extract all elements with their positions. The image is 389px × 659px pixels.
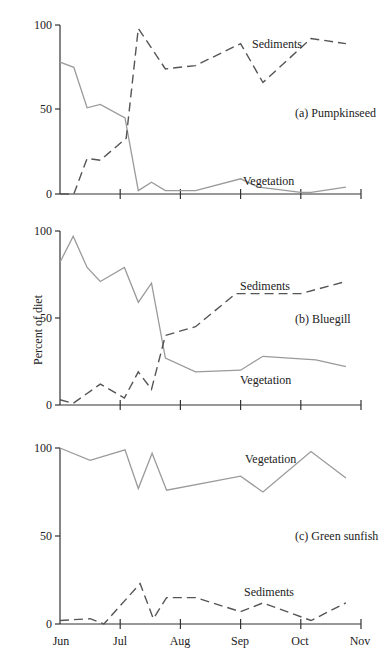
y-tick-0: 0 [46, 617, 52, 631]
x-label-jun: Jun [53, 634, 70, 648]
y-tick-0: 0 [46, 187, 52, 201]
vegetation-line [60, 236, 346, 372]
y-tick-100: 100 [34, 441, 52, 455]
y-tick-100: 100 [34, 224, 52, 238]
y-tick-50: 50 [40, 102, 52, 116]
diet-charts: 100 50 0 Sediments Vegetation (a) Pumpki… [0, 0, 389, 659]
y-tick-100: 100 [34, 18, 52, 32]
sediments-line [60, 282, 346, 404]
vegetation-label: Vegetation [243, 174, 294, 188]
vegetation-label: Vegetation [245, 452, 296, 466]
vegetation-line [60, 448, 346, 492]
y-ticks [55, 448, 60, 624]
x-label-aug: Aug [170, 634, 191, 648]
x-label-oct: Oct [291, 634, 309, 648]
y-ticks [55, 25, 60, 194]
panel-title: (c) Green sunfish [295, 529, 378, 543]
x-label-nov: Nov [350, 634, 371, 648]
panel-pumpkinseed: 100 50 0 Sediments Vegetation (a) Pumpki… [34, 18, 376, 201]
sediments-label: Sediments [244, 585, 294, 599]
panel-bluegill: 100 50 0 Sediments Vegetation (b) Bluegi… [34, 224, 361, 412]
panel-title: (a) Pumpkinseed [295, 106, 376, 120]
sediments-label: Sediments [240, 279, 290, 293]
panel-green-sunfish: 100 50 0 Sediments Vegetation (c) Green … [34, 441, 378, 648]
x-tick-labels: Jun Jul Aug Sep Oct Nov [53, 634, 371, 648]
y-tick-50: 50 [40, 529, 52, 543]
vegetation-label: Vegetation [240, 373, 291, 387]
y-axis-label: Percent of diet [31, 294, 45, 365]
y-ticks [55, 231, 60, 405]
sediments-label: Sediments [252, 37, 302, 51]
panel-title: (b) Bluegill [295, 312, 351, 326]
vegetation-line [60, 62, 346, 192]
sediments-line [60, 584, 346, 625]
x-label-jul: Jul [113, 634, 128, 648]
y-tick-0: 0 [46, 398, 52, 412]
x-label-sep: Sep [231, 634, 249, 648]
